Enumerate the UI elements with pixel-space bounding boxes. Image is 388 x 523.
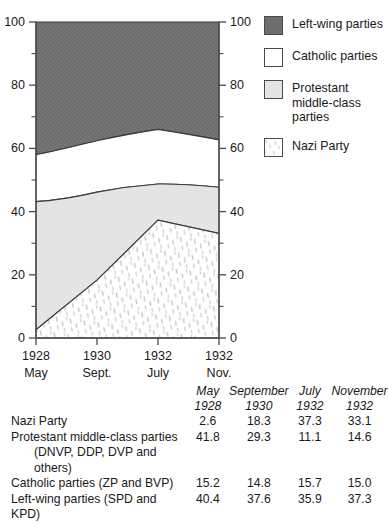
- legend-label-nazi: Nazi Party: [292, 138, 349, 154]
- y-label-left-40: 40: [11, 205, 25, 219]
- cell-left-wing-1928: 40.4: [187, 492, 229, 523]
- header-month-may: May: [187, 384, 229, 399]
- results-table: May September July November 1928 1930 19…: [0, 384, 388, 523]
- cell-left-wing-1930: 37.6: [229, 492, 289, 523]
- sub-blank-3: [289, 445, 331, 476]
- x-year-3: 1932: [205, 349, 233, 363]
- legend-label-left-wing: Left-wing parties: [292, 16, 383, 32]
- sub-blank-2: [229, 445, 289, 476]
- legend-item-left-wing[interactable]: Left-wing parties: [264, 16, 388, 35]
- x-month-2: July: [147, 366, 170, 380]
- table-row: Protestant middle-class parties 41.8 29.…: [0, 430, 388, 446]
- table-row: Catholic parties (ZP and BVP) 15.2 14.8 …: [0, 476, 388, 492]
- y-label-left-60: 60: [11, 141, 25, 155]
- y-label-left-0: 0: [18, 331, 25, 345]
- cell-catholic-1930: 14.8: [229, 476, 289, 492]
- x-month-3: Nov.: [207, 366, 232, 380]
- y-label-left-20: 20: [11, 268, 25, 282]
- cell-protestant-1928: 41.8: [187, 430, 229, 446]
- header-blank-1: [0, 384, 187, 399]
- header-year-1930: 1930: [229, 399, 289, 414]
- x-ticks: [36, 338, 219, 345]
- table-header-years: 1928 1930 1932 1932: [0, 399, 388, 414]
- row-label-nazi: Nazi Party: [0, 414, 187, 430]
- header-month-november: November: [331, 384, 388, 399]
- sub-blank-4: [331, 445, 388, 476]
- data-table: May September July November 1928 1930 19…: [0, 384, 388, 523]
- x-year-1: 1930: [83, 349, 111, 363]
- cell-nazi-1928: 2.6: [187, 414, 229, 430]
- cell-left-wing-1932nov: 37.3: [331, 492, 388, 523]
- y-label-right-0: 0: [230, 331, 237, 345]
- header-blank-2: [0, 399, 187, 414]
- y-label-right-60: 60: [230, 141, 244, 155]
- header-year-1932b: 1932: [331, 399, 388, 414]
- cell-protestant-1932nov: 14.6: [331, 430, 388, 446]
- y-label-left-80: 80: [11, 78, 25, 92]
- cell-nazi-1932nov: 33.1: [331, 414, 388, 430]
- chart-legend: Left-wing parties Catholic parties Prote…: [264, 16, 388, 170]
- row-label-left-wing: Left-wing parties (SPD and KPD): [0, 492, 187, 523]
- row-label-catholic: Catholic parties (ZP and BVP): [0, 476, 187, 492]
- legend-label-protestant: Protestant middle-class parties: [292, 80, 388, 125]
- y-label-right-80: 80: [230, 78, 244, 92]
- header-month-september: September: [229, 384, 289, 399]
- x-month-0: May: [24, 366, 48, 380]
- y-label-right-40: 40: [230, 205, 244, 219]
- y-label-right-100: 100: [230, 15, 251, 29]
- x-year-2: 1932: [144, 349, 172, 363]
- x-month-1: Sept.: [82, 366, 111, 380]
- legend-item-catholic[interactable]: Catholic parties: [264, 48, 388, 67]
- legend-item-nazi[interactable]: Nazi Party: [264, 138, 388, 157]
- x-year-0: 1928: [22, 349, 50, 363]
- legend-item-protestant[interactable]: Protestant middle-class parties: [264, 80, 388, 125]
- cell-catholic-1932july: 15.7: [289, 476, 331, 492]
- area-chart: 100 80 60 40 20 0 100 80 60 40 20 0 1928…: [0, 0, 260, 380]
- header-month-july: July: [289, 384, 331, 399]
- legend-swatch-protestant-icon: [264, 80, 283, 99]
- cell-catholic-1932nov: 15.0: [331, 476, 388, 492]
- table-header-months: May September July November: [0, 384, 388, 399]
- table-row: Nazi Party 2.6 18.3 37.3 33.1: [0, 414, 388, 430]
- stipple-pattern-icon: [265, 139, 281, 155]
- table-row: Left-wing parties (SPD and KPD) 40.4 37.…: [0, 492, 388, 523]
- cell-protestant-1932july: 11.1: [289, 430, 331, 446]
- cell-nazi-1932july: 37.3: [289, 414, 331, 430]
- header-year-1928: 1928: [187, 399, 229, 414]
- row-sublabel-protestant: (DNVP, DDP, DVP and others): [0, 445, 187, 476]
- cell-left-wing-1932july: 35.9: [289, 492, 331, 523]
- legend-swatch-left-wing-icon: [264, 16, 283, 35]
- cell-nazi-1930: 18.3: [229, 414, 289, 430]
- sub-blank-1: [187, 445, 229, 476]
- cell-protestant-1930: 29.3: [229, 430, 289, 446]
- y-label-left-100: 100: [4, 15, 25, 29]
- row-label-protestant: Protestant middle-class parties: [0, 430, 187, 446]
- y-label-right-20: 20: [230, 268, 244, 282]
- cell-catholic-1928: 15.2: [187, 476, 229, 492]
- legend-swatch-nazi-icon: [264, 138, 283, 157]
- header-year-1932a: 1932: [289, 399, 331, 414]
- chart-svg: 100 80 60 40 20 0 100 80 60 40 20 0 1928…: [0, 0, 260, 380]
- legend-swatch-catholic-icon: [264, 48, 283, 67]
- legend-label-catholic: Catholic parties: [292, 48, 377, 64]
- table-row-subline: (DNVP, DDP, DVP and others): [0, 445, 388, 476]
